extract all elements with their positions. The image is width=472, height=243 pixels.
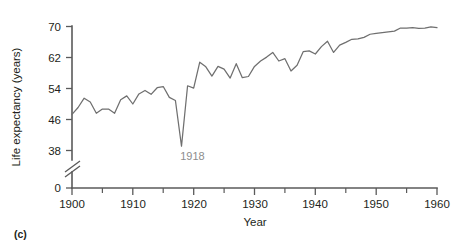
life-expectancy-line-chart: 70 62 54 46 38 0 1900 1910 19 xyxy=(0,0,472,243)
x-tick-label-1920: 1920 xyxy=(181,198,207,210)
y-tick-label-70: 70 xyxy=(48,21,61,33)
y-tick-label-62: 62 xyxy=(48,52,61,64)
chart-axes xyxy=(72,26,437,188)
x-axis-ticks xyxy=(72,188,437,195)
x-axis-title: Year xyxy=(243,216,266,228)
x-tick-label-1930: 1930 xyxy=(242,198,268,210)
x-tick-label-1940: 1940 xyxy=(302,198,328,210)
y-tick-label-46: 46 xyxy=(48,114,61,126)
y-tick-label-38: 38 xyxy=(48,145,61,157)
life-expectancy-series-line xyxy=(72,27,437,146)
x-axis-tick-labels: 1900 1910 1920 1930 1940 1950 1960 xyxy=(59,198,450,210)
y-axis-title: Life expectancy (years) xyxy=(10,47,22,166)
x-tick-label-1910: 1910 xyxy=(120,198,146,210)
figure-container: 70 62 54 46 38 0 1900 1910 19 xyxy=(0,0,472,243)
x-tick-label-1900: 1900 xyxy=(59,198,85,210)
figure-caption: (c) xyxy=(14,228,27,240)
x-tick-label-1960: 1960 xyxy=(424,198,450,210)
y-axis-tick-labels: 70 62 54 46 38 0 xyxy=(48,21,61,195)
x-tick-label-1950: 1950 xyxy=(363,198,389,210)
y-axis-ticks xyxy=(66,27,72,189)
y-tick-label-0: 0 xyxy=(55,182,61,194)
y-tick-label-54: 54 xyxy=(48,83,61,95)
annotation-label-1918: 1918 xyxy=(180,150,204,162)
